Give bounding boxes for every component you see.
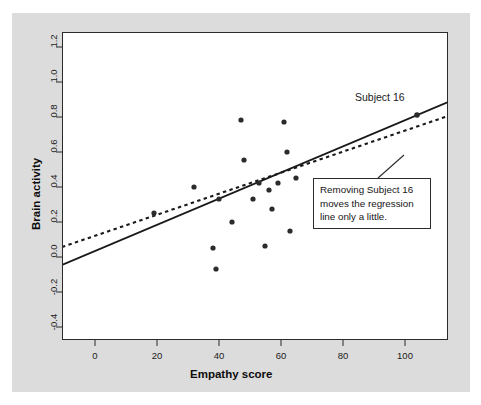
data-point <box>256 180 261 185</box>
x-tick-label: 100 <box>394 350 416 361</box>
y-tick-label: 0.0 <box>48 239 59 263</box>
data-point <box>262 243 267 248</box>
x-tick-label: 80 <box>333 350 353 361</box>
x-axis-title: Empathy score <box>190 368 272 380</box>
callout-line: Removing Subject 16 <box>320 183 425 197</box>
x-axis-ticks <box>95 340 405 346</box>
x-tick-label: 60 <box>271 350 291 361</box>
y-tick-label: 1.0 <box>48 64 59 88</box>
data-point <box>210 245 215 250</box>
scatter-plot-figure: 1.2 1.0 0.8 0.6 0.4 0.2 0.0 -0.2 -0.4 0 … <box>0 0 481 405</box>
data-point <box>266 187 271 192</box>
data-point <box>275 180 280 185</box>
data-point <box>238 117 243 122</box>
y-axis-title: Brain activity <box>30 158 42 230</box>
y-tick-label: 0.4 <box>48 169 59 193</box>
y-tick-label: 0.6 <box>48 134 59 158</box>
data-point-subject-16 <box>414 112 420 118</box>
y-tick-label: 0.8 <box>48 99 59 123</box>
y-tick-label: 1.2 <box>48 29 59 53</box>
callout-annotation-box: Removing Subject 16 moves the regression… <box>313 178 431 229</box>
x-tick-label: 40 <box>209 350 229 361</box>
x-tick-label: 20 <box>147 350 167 361</box>
data-point <box>287 228 292 233</box>
data-point <box>250 196 255 201</box>
y-tick-label: -0.2 <box>48 273 59 301</box>
data-point <box>281 119 286 124</box>
data-point <box>284 149 289 154</box>
y-tick-label: 0.2 <box>48 204 59 228</box>
data-point <box>229 219 234 224</box>
data-point <box>293 175 298 180</box>
x-tick-label: 0 <box>85 350 105 361</box>
y-tick-label: -0.4 <box>48 308 59 336</box>
data-point <box>213 266 218 271</box>
callout-line: moves the regression <box>320 197 425 211</box>
callout-connector <box>378 155 404 178</box>
data-point <box>241 157 246 162</box>
data-point <box>216 196 221 201</box>
data-point <box>269 206 274 211</box>
callout-line: line only a little. <box>320 210 425 224</box>
subject-16-label: Subject 16 <box>355 91 405 103</box>
data-point <box>191 184 196 189</box>
data-point <box>151 210 156 215</box>
